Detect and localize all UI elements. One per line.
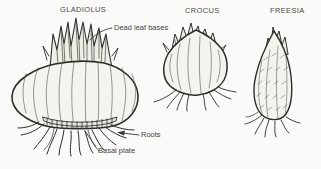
roots-label: Roots (141, 130, 161, 139)
specimen-title-gladiolus: GLADIOLUS (60, 5, 106, 14)
crocus-illustration (154, 23, 236, 111)
roots-leader-line (122, 133, 139, 135)
specimen-title-crocus: CROCUS (185, 6, 220, 15)
gladiolus-illustration (12, 18, 138, 156)
gladiolus-corm-body (12, 61, 138, 128)
corm-diagram: GLADIOLUS CROCUS FREESIA Dead leaf bases… (0, 0, 321, 169)
freesia-illustration (245, 27, 300, 137)
basal-plate-label: Basal plate (98, 146, 135, 155)
crocus-corm-body (164, 30, 227, 95)
basal-plate-leader-line (85, 131, 96, 147)
specimen-title-freesia: FREESIA (270, 6, 305, 15)
dead-leaf-bases-label: Dead leaf bases (114, 23, 168, 32)
